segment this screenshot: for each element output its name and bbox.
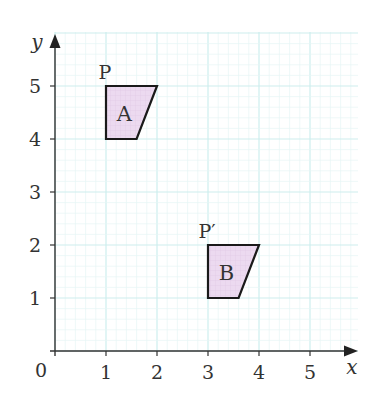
x-tick-label: 2 bbox=[151, 361, 163, 383]
shape-b-label: B bbox=[219, 261, 234, 285]
x-tick-label: 1 bbox=[100, 361, 112, 383]
y-axis-label: y bbox=[30, 30, 43, 54]
point-p-prime-label: P′ bbox=[198, 220, 215, 242]
y-tick-label: 4 bbox=[29, 128, 41, 150]
x-tick-label: 4 bbox=[253, 361, 265, 383]
origin-label: 0 bbox=[35, 359, 47, 381]
y-tick-label: 2 bbox=[29, 234, 41, 256]
y-tick-label: 5 bbox=[29, 75, 41, 97]
y-tick-label: 1 bbox=[29, 287, 41, 309]
y-axis-arrow-icon bbox=[50, 34, 61, 48]
shape-a-label: A bbox=[116, 102, 133, 126]
x-tick-label: 3 bbox=[202, 361, 214, 383]
coordinate-diagram: A P B P′ 1234512345 x y 0 bbox=[0, 0, 378, 399]
x-tick-label: 5 bbox=[304, 361, 316, 383]
axis-ticks: 1234512345 bbox=[29, 75, 316, 383]
point-p-label: P bbox=[99, 61, 112, 83]
y-tick-label: 3 bbox=[29, 181, 41, 203]
x-axis-label: x bbox=[346, 355, 357, 379]
